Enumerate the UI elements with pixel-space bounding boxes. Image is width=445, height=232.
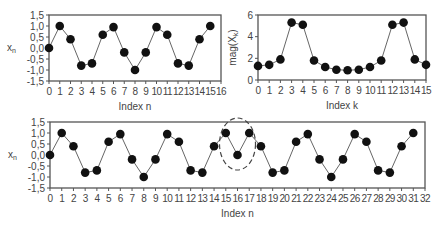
x-tick-label: 19: [268, 193, 279, 204]
data-point: [299, 20, 308, 29]
y-tick-label: -1,0: [27, 65, 45, 76]
data-point: [315, 155, 324, 164]
x-tick-label: 2: [68, 86, 74, 97]
x-tick-label: 7: [334, 85, 340, 96]
x-tick-label: 20: [279, 193, 290, 204]
x-tick-label: 6: [323, 85, 329, 96]
y-axis-label: mag(Xk): [227, 29, 239, 65]
x-tick-label: 1: [59, 193, 65, 204]
x-tick-label: 31: [408, 193, 419, 204]
x-axis-label: Index n: [221, 208, 254, 219]
x-tick-label: 3: [79, 86, 85, 97]
y-tick-label: -1,5: [28, 183, 46, 194]
data-point: [310, 56, 319, 65]
x-tick-label: 16: [233, 193, 244, 204]
data-point: [276, 55, 285, 64]
y-tick-label: -0,5: [28, 161, 46, 172]
x-tick-label: 3: [289, 85, 295, 96]
data-point: [184, 61, 193, 70]
data-point: [409, 129, 418, 138]
y-tick-label: 0,0: [31, 150, 45, 161]
y-tick-label: 6: [247, 10, 253, 21]
data-point: [186, 166, 195, 175]
x-tick-label: 7: [122, 86, 128, 97]
data-point: [233, 151, 242, 160]
data-point: [332, 65, 341, 74]
plot-signal-16: 0123456789101112131415161,51,00,50,0-0,5…: [7, 10, 227, 113]
y-axis-label: xn: [8, 149, 17, 161]
x-tick-label: 17: [244, 193, 255, 204]
x-tick-label: 27: [361, 193, 372, 204]
data-point: [411, 55, 420, 64]
x-tick-label: 9: [153, 193, 159, 204]
x-tick-label: 21: [291, 193, 302, 204]
y-tick-label: 1,5: [31, 117, 45, 128]
data-point: [66, 35, 75, 44]
x-tick-label: 11: [174, 193, 184, 204]
data-point: [268, 168, 277, 177]
data-point: [377, 56, 386, 65]
y-tick-label: -1,5: [27, 76, 45, 87]
data-point: [388, 20, 397, 29]
plot-signal-32: 0123456789101112131415161718192021222324…: [8, 117, 431, 220]
x-tick-label: 24: [326, 193, 337, 204]
data-point: [46, 151, 55, 160]
x-tick-label: 28: [373, 193, 384, 204]
y-tick-label: 0: [247, 75, 253, 86]
x-tick-label: 11: [163, 86, 173, 97]
x-tick-label: 4: [90, 86, 96, 97]
data-point: [93, 166, 102, 175]
data-point: [362, 138, 371, 147]
y-tick-label: 1,0: [31, 128, 45, 139]
data-point: [374, 166, 383, 175]
y-tick-label: 0,5: [31, 139, 45, 150]
data-point: [327, 173, 336, 182]
x-tick-label: 4: [94, 193, 100, 204]
x-tick-label: 8: [345, 85, 351, 96]
data-point: [257, 142, 266, 151]
data-point: [343, 66, 352, 75]
data-point: [287, 18, 296, 27]
x-tick-label: 2: [278, 85, 284, 96]
data-point: [116, 130, 125, 139]
y-axis-label: xn: [7, 42, 16, 54]
data-point: [195, 35, 204, 44]
x-tick-label: 13: [197, 193, 208, 204]
x-tick-label: 1: [267, 85, 273, 96]
data-point: [280, 166, 289, 175]
y-tick-label: 1,5: [30, 10, 44, 21]
data-point: [104, 138, 113, 147]
data-point: [355, 65, 364, 74]
data-point: [422, 61, 431, 70]
x-tick-label: 14: [410, 85, 421, 96]
data-point: [399, 18, 408, 27]
x-tick-label: 3: [83, 193, 89, 204]
x-tick-label: 11: [377, 85, 387, 96]
data-point: [304, 130, 313, 139]
data-point: [55, 22, 64, 31]
data-point: [210, 142, 219, 151]
x-tick-label: 5: [312, 85, 318, 96]
x-tick-label: 26: [350, 193, 361, 204]
data-point: [397, 142, 406, 151]
x-tick-label: 23: [315, 193, 326, 204]
x-tick-label: 15: [221, 193, 232, 204]
data-point: [120, 48, 129, 57]
x-tick-label: 12: [387, 85, 398, 96]
x-tick-label: 32: [420, 193, 431, 204]
x-tick-label: 13: [399, 85, 410, 96]
y-tick-label: 2: [247, 53, 253, 64]
y-tick-label: 0,0: [30, 43, 44, 54]
data-point: [206, 22, 215, 31]
figure: 0123456789101112131415161,51,00,50,0-0,5…: [0, 0, 445, 232]
data-point: [321, 63, 330, 72]
x-tick-label: 9: [356, 85, 362, 96]
x-tick-label: 12: [173, 86, 184, 97]
data-point: [174, 59, 183, 68]
x-tick-label: 10: [162, 193, 173, 204]
x-tick-label: 6: [111, 86, 117, 97]
x-tick-label: 15: [205, 86, 216, 97]
data-point: [45, 44, 54, 53]
data-point: [265, 61, 274, 70]
data-point: [151, 155, 160, 164]
